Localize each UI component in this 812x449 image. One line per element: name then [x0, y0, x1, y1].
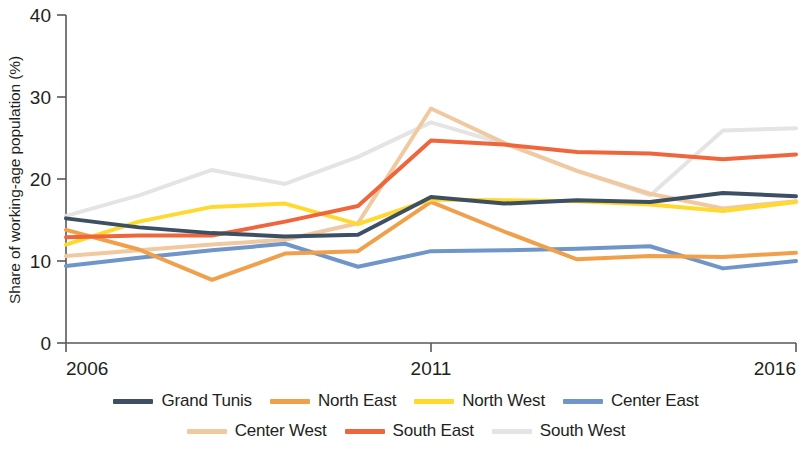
chart-figure: Share of working-age population (%) 0102… [0, 0, 812, 449]
legend-item-label: South East [393, 421, 474, 441]
legend-item-label: Grand Tunis [161, 391, 251, 411]
legend-swatch-icon [414, 399, 454, 404]
legend-swatch-icon [345, 429, 385, 434]
legend-item-center-east[interactable]: Center East [563, 391, 699, 411]
y-tick-label: 20 [30, 169, 51, 190]
legend-item-label: Center West [235, 421, 327, 441]
series-lines [66, 108, 796, 279]
y-tick-label: 10 [30, 251, 51, 272]
legend-swatch-icon [187, 429, 227, 434]
y-tick-label: 40 [30, 5, 51, 26]
y-tick-label: 30 [30, 87, 51, 108]
legend-item-center-west[interactable]: Center West [187, 421, 327, 441]
line-chart-plot: 010203040 200620112016 [0, 0, 812, 386]
legend-swatch-icon [270, 399, 310, 404]
x-tick-label: 2016 [754, 358, 796, 379]
x-tick-label: 2006 [66, 358, 108, 379]
legend-item-label: North East [318, 391, 396, 411]
legend-item-south-west[interactable]: South West [492, 421, 626, 441]
legend-item-label: North West [462, 391, 545, 411]
legend-swatch-icon [492, 429, 532, 434]
x-axis-ticks: 200620112016 [66, 343, 796, 379]
series-line-south-east [66, 140, 796, 237]
legend-item-label: Center East [611, 391, 699, 411]
legend-item-label: South West [540, 421, 626, 441]
legend-row: Center WestSouth EastSouth West [0, 416, 812, 446]
legend-item-south-east[interactable]: South East [345, 421, 474, 441]
legend-row: Grand TunisNorth EastNorth WestCenter Ea… [0, 386, 812, 416]
x-tick-label: 2011 [411, 358, 452, 379]
y-tick-label: 0 [40, 333, 51, 354]
legend-swatch-icon [113, 399, 153, 404]
legend-item-north-west[interactable]: North West [414, 391, 545, 411]
legend-item-grand-tunis[interactable]: Grand Tunis [113, 391, 251, 411]
series-line-north-west [66, 200, 796, 245]
chart-legend: Grand TunisNorth EastNorth WestCenter Ea… [0, 386, 812, 449]
legend-swatch-icon [563, 399, 603, 404]
y-axis-ticks: 010203040 [30, 5, 66, 354]
legend-item-north-east[interactable]: North East [270, 391, 396, 411]
